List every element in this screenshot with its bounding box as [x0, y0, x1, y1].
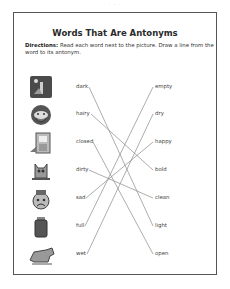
line-dark-light [89, 87, 153, 226]
line-sad-happy [86, 142, 153, 198]
matching-lines [0, 0, 230, 289]
line-full-empty [85, 87, 153, 226]
line-wet-dry [87, 114, 153, 254]
line-closed-open [93, 142, 153, 254]
line-hairy-bold [91, 114, 153, 170]
